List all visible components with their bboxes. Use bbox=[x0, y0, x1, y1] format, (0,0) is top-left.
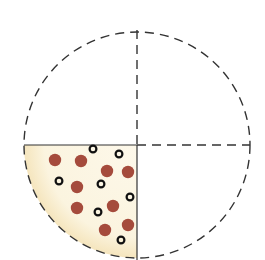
filled-dot bbox=[101, 165, 113, 177]
quadrant-circle-diagram bbox=[0, 0, 265, 260]
filled-dot bbox=[71, 202, 83, 214]
filled-dot bbox=[122, 219, 134, 231]
filled-dot bbox=[122, 166, 134, 178]
filled-dot bbox=[75, 155, 87, 167]
filled-dot bbox=[99, 224, 111, 236]
filled-dot bbox=[107, 200, 119, 212]
filled-dot bbox=[49, 154, 61, 166]
filled-dot bbox=[71, 181, 83, 193]
